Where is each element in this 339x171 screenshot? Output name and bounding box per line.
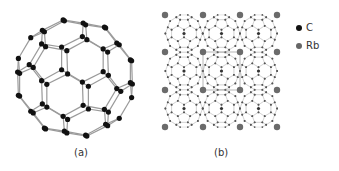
rubidium-dot-icon xyxy=(296,43,302,49)
c60-molecule-diagram xyxy=(15,17,135,138)
legend-label-carbon: C xyxy=(306,22,313,33)
legend-item-rubidium: Rb xyxy=(296,40,319,51)
legend-label-rubidium: Rb xyxy=(306,40,319,51)
rb3c60-lattice-diagram xyxy=(162,12,280,130)
panel-b-label: (b) xyxy=(214,147,228,158)
legend-item-carbon: C xyxy=(296,22,313,33)
figure-canvas xyxy=(0,0,339,171)
panel-a-label: (a) xyxy=(74,147,88,158)
carbon-dot-icon xyxy=(296,25,302,31)
